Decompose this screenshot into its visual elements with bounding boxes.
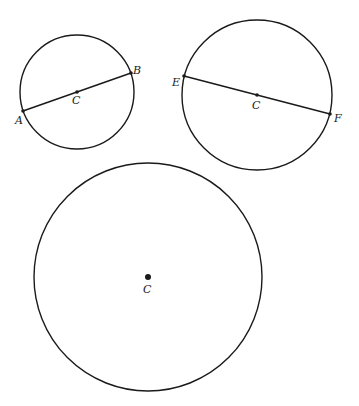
circles-diagram: A B C E F C C (0, 0, 359, 406)
circle-1-group: A B C (14, 35, 141, 149)
label-center-3: C (143, 283, 152, 296)
label-a: A (14, 114, 23, 127)
point-a (21, 109, 25, 113)
label-f: F (333, 112, 342, 125)
circle-3-group: C (34, 163, 262, 391)
point-f (328, 112, 332, 116)
label-center-2: C (252, 99, 261, 112)
label-center-1: C (72, 94, 81, 107)
label-e: E (171, 76, 180, 89)
center-point-2 (255, 93, 259, 97)
circle-2-group: E F C (171, 20, 342, 170)
label-b: B (132, 64, 141, 77)
center-point-3 (145, 274, 151, 280)
point-e (182, 74, 186, 78)
